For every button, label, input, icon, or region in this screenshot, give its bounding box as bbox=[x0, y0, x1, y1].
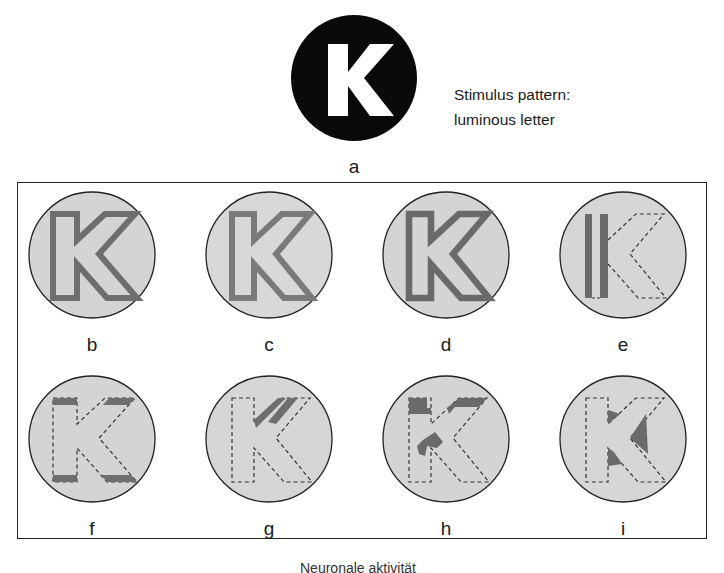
label-h: h bbox=[426, 518, 466, 540]
label-f: f bbox=[72, 518, 112, 540]
label-i: i bbox=[603, 518, 643, 540]
footer-text: Neuronale aktivität bbox=[300, 560, 416, 573]
panel-e-disc bbox=[558, 190, 688, 320]
label-c: c bbox=[249, 334, 289, 356]
label-d: d bbox=[426, 334, 466, 356]
stimulus-caption: Stimulus pattern: luminous letter bbox=[454, 82, 570, 132]
label-b: b bbox=[72, 334, 112, 356]
panel-h-disc bbox=[381, 374, 511, 504]
panel-i-disc bbox=[558, 374, 688, 504]
panel-c-disc bbox=[204, 190, 334, 320]
panel-d-disc bbox=[381, 190, 511, 320]
label-g: g bbox=[249, 518, 289, 540]
stimulus-disc bbox=[290, 14, 418, 142]
label-e: e bbox=[603, 334, 643, 356]
panel-b-disc bbox=[27, 190, 157, 320]
caption-line-1: Stimulus pattern: bbox=[454, 82, 570, 107]
caption-line-2: luminous letter bbox=[454, 107, 570, 132]
panel-g-disc bbox=[204, 374, 334, 504]
panel-f-disc bbox=[27, 374, 157, 504]
label-a: a bbox=[334, 156, 374, 178]
